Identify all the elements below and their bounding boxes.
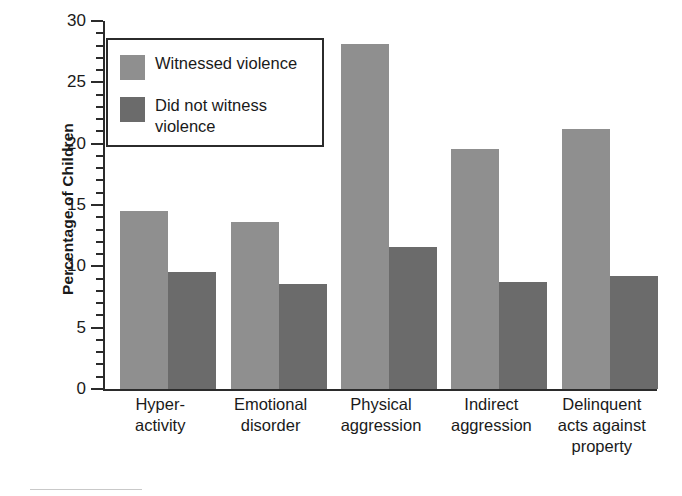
y-tick-minor (96, 32, 103, 34)
x-category-label: Delinquent acts against property (541, 394, 663, 457)
y-tick-minor (96, 290, 103, 292)
bar-chart: Percentage of Children 051015202530 Hype… (0, 0, 682, 496)
bar-group (326, 21, 436, 389)
legend-swatch-icon (120, 55, 145, 80)
y-tick-label: 0 (52, 380, 86, 397)
legend-label: Witnessed violence (155, 53, 297, 74)
bar (341, 44, 389, 389)
y-tick-label: 20 (52, 135, 86, 152)
y-tick-major (91, 327, 103, 329)
y-tick-minor (96, 278, 103, 280)
y-tick-minor (96, 314, 103, 316)
y-tick-minor (96, 69, 103, 71)
y-tick-minor (96, 216, 103, 218)
y-tick-minor (96, 376, 103, 378)
x-category-label: Emotional disorder (209, 394, 331, 436)
y-tick-label: 25 (52, 73, 86, 90)
bar (231, 222, 279, 389)
legend: Witnessed violence Did not witness viole… (106, 38, 324, 147)
y-tick-minor (96, 253, 103, 255)
y-tick-label: 30 (52, 12, 86, 29)
bar (499, 282, 547, 389)
y-tick-minor (96, 339, 103, 341)
x-category-label: Hyper- activity (99, 394, 221, 436)
y-tick-label: 5 (52, 319, 86, 336)
y-tick-minor (96, 351, 103, 353)
y-tick-minor (96, 130, 103, 132)
y-tick-label: 10 (52, 257, 86, 274)
legend-label: Did not witness violence (155, 95, 267, 138)
bar (451, 149, 499, 389)
y-tick-minor (96, 94, 103, 96)
y-tick-minor (96, 363, 103, 365)
bar (168, 272, 216, 389)
legend-entry-witnessed: Witnessed violence (120, 53, 297, 80)
y-tick-major (91, 265, 103, 267)
x-category-label: Physical aggression (320, 394, 442, 436)
y-tick-major (91, 143, 103, 145)
bar (562, 129, 610, 389)
y-tick-minor (96, 45, 103, 47)
y-tick-major (91, 20, 103, 22)
y-tick-minor (96, 118, 103, 120)
bar (279, 284, 327, 389)
y-tick-minor (96, 192, 103, 194)
y-tick-minor (96, 241, 103, 243)
y-tick-major (91, 81, 103, 83)
y-tick-minor (96, 167, 103, 169)
y-tick-minor (96, 57, 103, 59)
y-tick-label: 15 (52, 196, 86, 213)
legend-entry-did-not-witness: Did not witness violence (120, 95, 267, 138)
y-tick-major (91, 204, 103, 206)
x-category-label: Indirect aggression (430, 394, 552, 436)
bar-group (436, 21, 546, 389)
legend-swatch-icon (120, 97, 145, 122)
y-tick-minor (96, 106, 103, 108)
bar (389, 247, 437, 389)
y-tick-minor (96, 179, 103, 181)
bar-group (547, 21, 657, 389)
x-axis-line (103, 389, 657, 391)
y-tick-minor (96, 155, 103, 157)
y-tick-minor (96, 302, 103, 304)
y-tick-major (91, 388, 103, 390)
footer-rule (30, 489, 142, 490)
bar (120, 211, 168, 389)
y-tick-minor (96, 229, 103, 231)
bar (610, 276, 658, 389)
